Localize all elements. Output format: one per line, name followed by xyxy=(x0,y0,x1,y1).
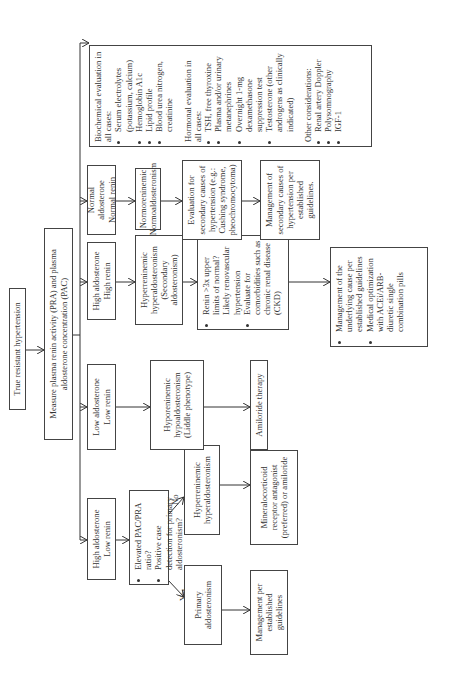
category-high-aldo-high-renin: High aldosteroneHigh renin xyxy=(87,242,116,320)
biochem-title: Biochemical evaluation in all cases: xyxy=(93,50,113,142)
cat-line2: High renin xyxy=(102,263,112,300)
other-title: Other considerations: xyxy=(303,50,313,142)
primary-mgmt-box: Management per established guidelines xyxy=(250,570,288,655)
hormonal-item: Plasma and/or urinary metanephrines xyxy=(213,50,233,132)
eval-text: Evaluation for secondary causes of hyper… xyxy=(186,164,237,235)
biochem-item: Serum electrolytes (potassium, calcium) xyxy=(113,50,133,132)
hormonal-item: Testosterone (other androgens as clinica… xyxy=(264,50,295,132)
cat-line1: Low aldosterone xyxy=(91,378,101,436)
mgmt-secondary-box: Management of secondary causes of hypert… xyxy=(260,160,320,240)
primary-text: Primary aldosteronism xyxy=(193,570,213,640)
secondary-aldo-box: Hyperreninemic hyperaldosteronism (Secon… xyxy=(135,235,183,325)
hyper1-text: Hyperreninemic hyperaldosteronism xyxy=(192,450,212,530)
mr-text: Mineralocorticoid receptor antagonist (p… xyxy=(259,455,290,540)
mgmt-item: Medical optimization with ACEi/ARB-diure… xyxy=(365,252,406,332)
biochem-item: Lipid profile xyxy=(144,50,154,132)
measure-box: Measure plasma renin activity (PRA) and … xyxy=(44,228,73,440)
pac-item: Elevated PAC/PRA ratio? xyxy=(133,495,153,570)
primary-aldo-box: Primary aldosteronism xyxy=(184,565,222,645)
hyperreninemic-box-1: Hyperreninemic hyperaldosteronism xyxy=(184,445,220,535)
title-text: True resistant hypertension xyxy=(12,302,22,395)
mgmt-item: Management of the underlying cause per e… xyxy=(334,252,365,332)
secondary-text: Hyperreninemic hyperaldosteronism (Secon… xyxy=(139,240,180,320)
side-panel: Biochemical evaluation in all cases: Ser… xyxy=(89,45,372,147)
measure-text: Measure plasma renin activity (PRA) and … xyxy=(48,233,68,435)
no-label: No xyxy=(170,494,180,505)
normo-text: Normoreninemic Normoaldosteronism xyxy=(138,163,158,236)
hormonal-title: Hormonal evaluation in all cases: xyxy=(183,50,203,142)
biochem-item: Blood urea nitrogen, creatinine xyxy=(154,50,174,132)
cat-line2: Normal renin xyxy=(107,177,117,223)
category-low-aldo-low-renin: Low aldosteroneLow renin xyxy=(87,364,116,450)
normo-box: Normoreninemic Normoaldosteronism xyxy=(135,168,161,230)
eval-secondary-box: Evaluation for secondary causes of hyper… xyxy=(182,160,242,240)
hypo-text: Hyporeninemic hypoaldosteronism (Liddle … xyxy=(162,365,193,445)
flowchart: True resistant hypertension Measure plas… xyxy=(0,0,463,685)
other-item: IGF-1 xyxy=(333,50,343,132)
amiloride-text: Amiloride therapy xyxy=(254,373,264,436)
cat-line1: High aldosterone xyxy=(91,510,101,569)
renin-box: Renin >3x upper limits of normal? Likely… xyxy=(197,235,289,330)
hormonal-item: Overnight 1-mg dexamethasone suppression… xyxy=(234,50,265,132)
category-high-aldo-low-renin: High aldosteroneLow renin xyxy=(87,498,116,580)
cat-line2: Low renin xyxy=(102,389,112,425)
category-normal-aldo-normal-renin: Normal aldosteroneNormal renin xyxy=(87,165,116,235)
title-box: True resistant hypertension xyxy=(9,288,26,410)
cat-line1: High aldosterone xyxy=(91,252,101,311)
renin-item: Renin >3x upper limits of normal? Likely… xyxy=(201,240,242,315)
renin-item: Evaluate for comorbidities such as chron… xyxy=(242,240,283,315)
hyporeninemic-box: Hyporeninemic hypoaldosteronism (Liddle … xyxy=(150,360,204,450)
cat-line2: Low renin xyxy=(102,521,112,557)
other-item: Renal artery Doppler xyxy=(313,50,323,132)
pac-question-box: Elevated PAC/PRA ratio?Positive case det… xyxy=(129,490,169,585)
mgmt-sec-text: Management of secondary causes of hypert… xyxy=(264,165,315,235)
other-item: Polysomnography xyxy=(323,50,333,132)
cat-line1: Normal aldosterone xyxy=(86,170,106,230)
primary-mgmt-text: Management per established guidelines xyxy=(254,575,285,650)
pac-item: Positive case detection for primary aldo… xyxy=(153,495,184,570)
mr-antagonist-box: Mineralocorticoid receptor antagonist (p… xyxy=(250,450,298,545)
hormonal-item: TSH, free thyroxine xyxy=(203,50,213,132)
biochem-item: Hemoglobin A1c xyxy=(134,50,144,132)
amiloride-box: Amiloride therapy xyxy=(250,360,268,450)
underlying-mgmt-box: Management of the underlying cause per e… xyxy=(330,247,428,347)
